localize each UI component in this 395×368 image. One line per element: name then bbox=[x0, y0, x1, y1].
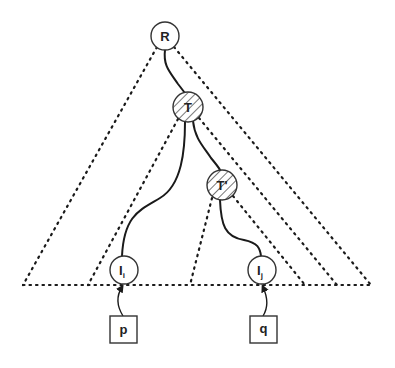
node-T-label: T bbox=[184, 100, 192, 115]
node-I-i: Ii bbox=[110, 256, 138, 284]
arrow-q-to-I-j bbox=[263, 287, 267, 316]
node-R: R bbox=[151, 22, 179, 50]
edge-T-to-I-i bbox=[122, 122, 185, 256]
node-I-j: Ij bbox=[248, 256, 276, 284]
box-p: p bbox=[110, 316, 137, 343]
node-T-prime-label: T' bbox=[216, 178, 227, 193]
subtree-T-prime-left-edge bbox=[190, 198, 212, 285]
tree-diagram: R T T' Ii Ij p q bbox=[0, 0, 395, 368]
pointer-arrows bbox=[118, 287, 267, 316]
solid-paths bbox=[122, 50, 261, 256]
node-T-prime: T' bbox=[207, 170, 237, 200]
node-I-j-subscript: j bbox=[260, 271, 263, 280]
dotted-subtree-outlines bbox=[23, 47, 372, 285]
box-q-label: q bbox=[260, 321, 268, 336]
node-T: T bbox=[173, 92, 203, 122]
subtree-R-left-edge bbox=[23, 47, 157, 285]
subtree-R-right-edge bbox=[174, 47, 371, 285]
box-p-label: p bbox=[120, 322, 128, 337]
box-q: q bbox=[250, 316, 277, 343]
node-R-label: R bbox=[160, 29, 170, 44]
node-I-i-subscript: i bbox=[123, 271, 125, 280]
edge-T-prime-to-I-j bbox=[220, 200, 261, 256]
arrow-p-to-I-i bbox=[118, 287, 123, 316]
